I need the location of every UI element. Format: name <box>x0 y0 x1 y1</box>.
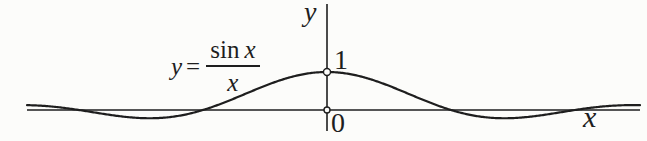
equation-label: y = sin x x <box>171 37 260 95</box>
origin-label: 0 <box>331 109 345 137</box>
equation-denominator: x <box>227 67 238 95</box>
equation-numerator-var: x <box>244 36 255 63</box>
limit-point-open-marker <box>324 69 331 76</box>
x-axis-label: x <box>583 102 596 132</box>
sinc-function-figure: y 1 0 x y = sin x x <box>0 0 647 141</box>
y-axis-label: y <box>304 0 316 26</box>
equation-equals-sign: = <box>186 54 200 79</box>
y-tick-1-label: 1 <box>334 46 348 74</box>
equation-fraction: sin x x <box>206 37 259 95</box>
equation-numerator: sin x <box>206 37 259 67</box>
equation-sin-fn: sin <box>210 36 239 63</box>
origin-open-marker <box>324 107 330 113</box>
equation-lhs-var: y <box>171 54 182 79</box>
plot-canvas <box>0 0 647 141</box>
